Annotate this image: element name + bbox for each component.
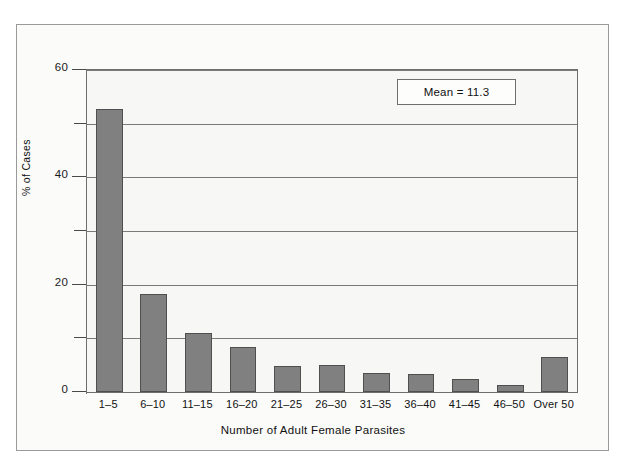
- gridline: [87, 285, 577, 286]
- gridline: [87, 231, 577, 232]
- x-axis-label: 1–5: [86, 398, 131, 410]
- plot-area: [86, 69, 578, 393]
- bar: [497, 385, 524, 393]
- bar: [363, 373, 390, 392]
- y-axis-tick: [74, 337, 86, 338]
- y-axis-tick: [74, 230, 86, 231]
- bar: [140, 294, 167, 392]
- mean-annotation-box: Mean = 11.3: [397, 79, 516, 105]
- x-axis-title: Number of Adult Female Parasites: [0, 424, 626, 436]
- x-axis-label: 11–15: [175, 398, 220, 410]
- bar: [96, 109, 123, 392]
- x-axis-label: 46–50: [487, 398, 532, 410]
- y-axis-label: 60: [28, 61, 68, 73]
- bar: [452, 379, 479, 392]
- y-axis-tick: [74, 123, 86, 124]
- y-axis-label: 0: [28, 383, 68, 395]
- y-axis-tick: [72, 391, 86, 392]
- y-axis-line: [86, 69, 87, 394]
- bar: [230, 347, 257, 392]
- x-axis-label: 6–10: [131, 398, 176, 410]
- gridline: [87, 70, 577, 71]
- x-axis-label: 31–35: [353, 398, 398, 410]
- gridline: [87, 124, 577, 125]
- bar: [185, 333, 212, 392]
- x-axis-label: 36–40: [398, 398, 443, 410]
- y-axis-tick: [72, 69, 86, 70]
- chart-figure: 6040200 % of Cases 1–56–1011–1516–2021–2…: [0, 0, 626, 475]
- mean-annotation-label: Mean = 11.3: [424, 86, 490, 98]
- gridline: [87, 177, 577, 178]
- x-axis-label: 16–20: [220, 398, 265, 410]
- x-axis-label: Over 50: [531, 398, 576, 410]
- bar: [541, 357, 568, 392]
- bar: [319, 365, 346, 392]
- y-axis-tick: [72, 284, 86, 285]
- bar: [408, 374, 435, 392]
- y-axis-label: 40: [28, 168, 68, 180]
- x-axis-label: 41–45: [442, 398, 487, 410]
- y-axis-title: % of Cases: [20, 139, 32, 196]
- x-axis-label: 21–25: [264, 398, 309, 410]
- y-axis-tick: [72, 176, 86, 177]
- y-axis-label: 20: [28, 276, 68, 288]
- bar: [274, 366, 301, 392]
- x-axis-label: 26–30: [309, 398, 354, 410]
